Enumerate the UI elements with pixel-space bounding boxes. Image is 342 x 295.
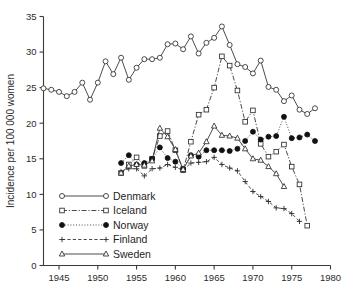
data-point (281, 184, 286, 189)
y-axis-tick-label: 0 (31, 260, 36, 271)
data-point (196, 51, 201, 56)
data-point (258, 137, 263, 142)
legend-marker (103, 251, 108, 256)
legend-marker (104, 223, 109, 228)
data-point (119, 55, 124, 60)
data-point (235, 146, 240, 151)
data-point (266, 134, 271, 139)
x-axis-tick-label: 1965 (204, 272, 225, 283)
legend-marker (104, 208, 109, 213)
data-point (227, 148, 232, 153)
data-point (258, 58, 263, 63)
data-point (142, 57, 147, 62)
data-point (41, 86, 46, 91)
y-axis-tick-label: 25 (26, 82, 37, 93)
data-point (243, 139, 248, 144)
data-point (212, 148, 217, 153)
x-axis-tick-label: 1970 (242, 272, 263, 283)
data-point (235, 62, 240, 67)
legend-label: Iceland (113, 204, 147, 216)
data-point (281, 206, 286, 211)
data-point (227, 63, 232, 68)
data-point (204, 107, 209, 112)
data-point (297, 107, 302, 112)
legend-label: Finland (113, 233, 148, 245)
data-point (289, 136, 294, 141)
y-axis-tick-label: 15 (26, 153, 37, 164)
data-point (305, 223, 310, 228)
data-point (173, 159, 178, 164)
data-point (173, 165, 178, 170)
data-point (49, 87, 54, 92)
data-point (312, 106, 317, 111)
legend-item-sweden[interactable]: Sweden (59, 248, 151, 260)
legend-marker (59, 251, 64, 256)
data-point (297, 182, 302, 187)
series-line-sweden (121, 126, 284, 186)
legend-marker (103, 237, 108, 242)
data-point (64, 94, 69, 99)
data-point (281, 114, 286, 119)
data-point (204, 139, 209, 144)
data-point (188, 34, 193, 39)
legend-marker (60, 208, 65, 213)
legend-label: Sweden (113, 248, 151, 260)
data-point (219, 148, 224, 153)
chart-axes (44, 17, 331, 266)
legend-marker (60, 194, 65, 199)
data-point (243, 119, 248, 124)
series-sweden (118, 123, 286, 188)
data-point (157, 165, 162, 170)
data-point (211, 123, 216, 128)
legend-item-finland[interactable]: Finland (59, 233, 147, 245)
x-axis-tick-label: 1945 (48, 272, 69, 283)
y-axis-tick-label: 10 (26, 189, 37, 200)
data-point (204, 148, 209, 153)
legend-item-norway[interactable]: Norway (60, 219, 150, 231)
data-point (181, 47, 186, 52)
data-point (212, 35, 217, 40)
legend-marker (59, 237, 64, 242)
data-point (227, 165, 232, 170)
series-iceland (119, 54, 310, 228)
data-point (189, 139, 194, 144)
data-point (157, 125, 162, 130)
data-point (312, 139, 317, 144)
data-point (219, 24, 224, 29)
data-point (289, 93, 294, 98)
y-axis-tick-label: 20 (26, 118, 37, 129)
data-point (95, 80, 100, 85)
data-point (204, 159, 209, 164)
data-point (134, 65, 139, 70)
y-axis-tick-label: 35 (26, 11, 37, 22)
data-point (126, 153, 131, 158)
data-point (165, 129, 170, 134)
data-point (157, 145, 162, 150)
line-chart-canvas: 0510152025303519451950195519601965197019… (0, 0, 342, 295)
legend-marker (60, 223, 65, 228)
data-point (251, 108, 256, 113)
data-point (57, 89, 62, 94)
data-point (274, 149, 279, 154)
data-point (289, 164, 294, 169)
legend-item-denmark[interactable]: Denmark (60, 190, 157, 202)
data-point (211, 155, 216, 160)
data-point (266, 84, 271, 89)
data-point (165, 42, 170, 47)
data-point (72, 89, 77, 94)
legend-item-iceland[interactable]: Iceland (60, 204, 147, 216)
legend-label: Denmark (113, 190, 156, 202)
data-point (165, 162, 170, 167)
data-point (227, 42, 232, 47)
data-point (235, 168, 240, 173)
series-line-denmark (44, 26, 315, 114)
data-point (258, 194, 263, 199)
data-point (126, 77, 131, 82)
data-point (111, 72, 116, 77)
data-point (250, 71, 255, 76)
data-point (297, 135, 302, 140)
data-point (250, 189, 255, 194)
data-point (173, 41, 178, 46)
x-axis-tick-label: 1950 (87, 272, 108, 283)
data-point (204, 40, 209, 45)
